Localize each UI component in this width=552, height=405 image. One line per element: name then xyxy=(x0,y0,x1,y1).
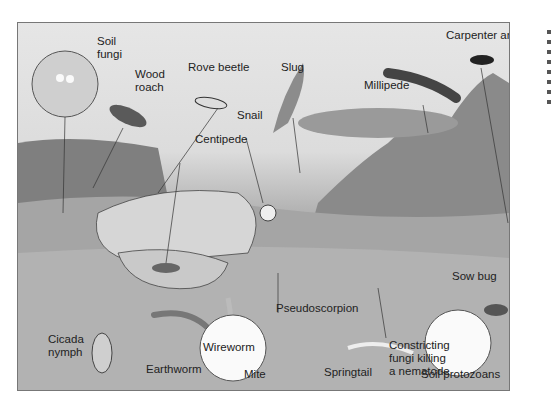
label-springtail: Springtail xyxy=(324,366,372,379)
cicada-nymph-icon xyxy=(92,333,112,373)
soil-fungi-icon xyxy=(32,51,98,117)
label-cicada-nymph: Cicada nymph xyxy=(48,333,84,359)
cropped-side-text xyxy=(547,30,552,110)
rove-beetle-icon xyxy=(194,95,227,110)
label-sow-bug: Sow bug xyxy=(452,270,497,283)
label-soil-fungi: Soil fungi xyxy=(97,35,122,61)
label-wood-roach: Wood roach xyxy=(135,68,165,94)
label-soil-protozoans: Soil protozoans xyxy=(421,368,500,381)
centipede-icon xyxy=(152,263,180,273)
label-rove-beetle: Rove beetle xyxy=(188,61,249,74)
soil-scene xyxy=(18,23,509,390)
wood-roach-icon xyxy=(106,100,149,131)
snail-icon xyxy=(260,205,276,221)
label-earthworm: Earthworm xyxy=(146,363,202,376)
shelf-fungus-icon xyxy=(298,108,458,138)
label-centipede: Centipede xyxy=(195,133,247,146)
label-pseudoscorpion: Pseudoscorpion xyxy=(276,302,358,315)
sow-bug-icon xyxy=(484,304,508,316)
label-carpenter-ant: Carpenter ant xyxy=(446,29,510,42)
label-wireworm: Wireworm xyxy=(203,341,255,354)
label-millipede: Millipede xyxy=(364,79,409,92)
carpenter-ant-icon xyxy=(470,55,494,65)
illustration-frame: Soil fungi Wood roach Rove beetle Slug M… xyxy=(17,22,510,391)
label-mite: Mite xyxy=(244,368,266,381)
label-snail: Snail xyxy=(237,109,263,122)
label-slug: Slug xyxy=(281,61,304,74)
